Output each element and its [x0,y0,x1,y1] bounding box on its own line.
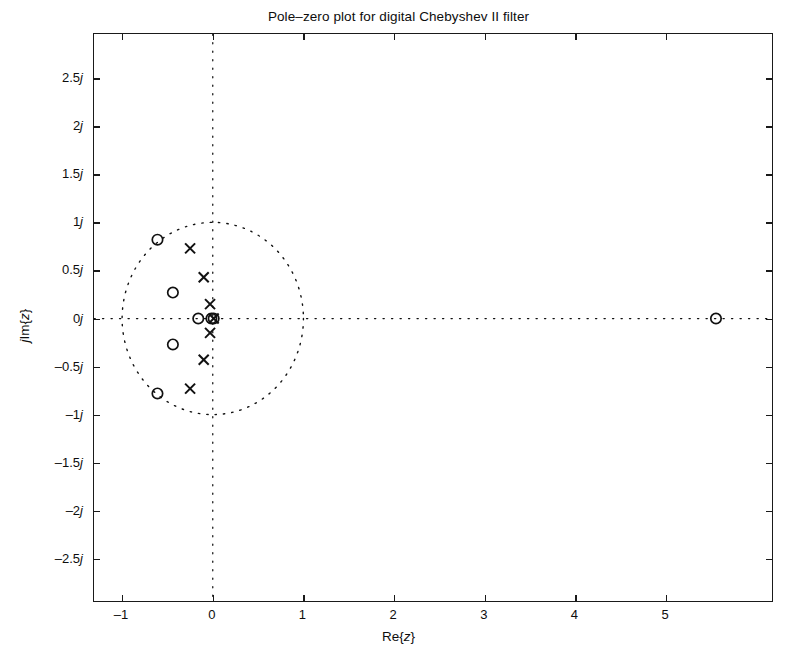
x-tick-top [485,34,486,40]
y-tick-label: 2j [0,118,83,133]
x-axis-title-prefix: Re{ [382,629,404,644]
y-tick [94,415,100,416]
zero-marker [168,287,178,297]
y-axis-title: jIm{z} [17,266,32,386]
y-tick-right [766,511,772,512]
y-tick-label: 0j [0,310,83,325]
y-tick [94,367,100,368]
y-tick-label: 1j [0,214,83,229]
y-tick-right [766,367,772,368]
x-tick-label: 5 [661,607,668,622]
page-title: Pole–zero plot for digital Chebyshev II … [0,9,797,24]
pole-marker [205,299,215,309]
plot-area [94,34,772,601]
y-tick [94,319,100,320]
x-tick-top [303,34,304,40]
x-tick-top [122,34,123,40]
x-axis-title-var: z [404,629,411,644]
y-tick-label: –2j [0,502,83,517]
y-tick-right [766,78,772,79]
x-tick [666,595,667,601]
zero-marker [168,339,178,349]
x-tick-top [394,34,395,40]
y-tick-label: –0.5j [0,358,83,373]
y-tick [94,559,100,560]
pole-marker [185,384,195,394]
y-tick [94,222,100,223]
y-tick-right [766,174,772,175]
zero-marker [193,313,203,323]
y-tick [94,126,100,127]
x-tick [485,595,486,601]
y-tick-label: –2.5j [0,550,83,565]
y-tick-right [766,319,772,320]
y-tick-label: 1.5j [0,166,83,181]
x-axis-title: Re{z} [0,629,797,644]
plot-axes-frame [93,33,773,602]
x-tick [575,595,576,601]
y-tick-right [766,270,772,271]
zero-marker [152,388,162,398]
pole-marker [205,328,215,338]
y-tick-label: –1j [0,406,83,421]
x-tick-label: 1 [299,607,306,622]
x-tick [303,595,304,601]
x-tick-top [575,34,576,40]
y-axis-title-j: j [17,339,32,342]
y-axis-title-prefix: Im{ [17,320,32,340]
zero-marker [152,234,162,244]
x-tick [213,595,214,601]
x-tick [122,595,123,601]
pole-marker [199,272,209,282]
y-tick-right [766,222,772,223]
x-tick-top [666,34,667,40]
y-tick [94,174,100,175]
y-tick-label: 2.5j [0,70,83,85]
y-tick [94,511,100,512]
x-axis-title-suffix: } [411,629,416,644]
figure-canvas: Pole–zero plot for digital Chebyshev II … [0,0,797,665]
y-axis-title-suffix: } [17,309,32,314]
x-tick [394,595,395,601]
x-tick-top [213,34,214,40]
y-tick-right [766,415,772,416]
x-tick-label: –1 [114,607,128,622]
x-tick-label: 0 [208,607,215,622]
y-tick-label: –1.5j [0,454,83,469]
x-tick-label: 2 [389,607,396,622]
pole-zero-scatter [94,34,772,601]
pole-marker [185,243,195,253]
y-tick-right [766,126,772,127]
y-axis-title-var: z [17,313,32,320]
x-tick-label: 3 [480,607,487,622]
pole-marker [199,355,209,365]
y-tick-right [766,559,772,560]
x-tick-label: 4 [571,607,578,622]
y-tick-right [766,463,772,464]
y-tick [94,270,100,271]
y-tick [94,463,100,464]
y-tick [94,78,100,79]
y-tick-label: 0.5j [0,262,83,277]
